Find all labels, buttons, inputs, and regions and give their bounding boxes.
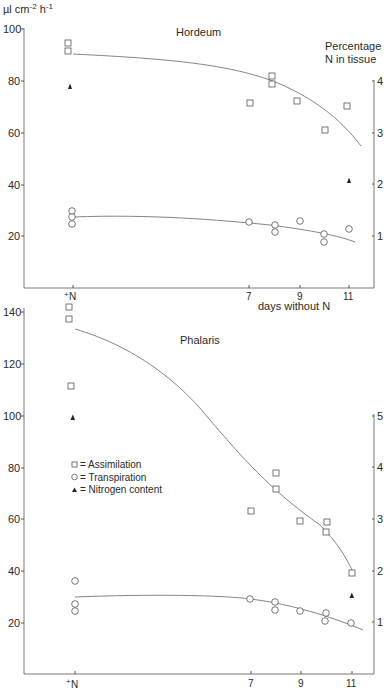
assimilation-fit-curve bbox=[75, 329, 352, 570]
svg-text:4: 4 bbox=[377, 461, 383, 473]
legend-item-nitrogen: = Nitrogen content bbox=[72, 484, 162, 495]
chart-phalaris: Phalaris 140 120 100 80 60 40 20 5 4 3 2… bbox=[3, 304, 383, 690]
figure: µl cm-2 h-1 Hordeum Percentage N in tiss… bbox=[0, 0, 390, 692]
svg-text:4: 4 bbox=[377, 75, 383, 87]
nitrogen-points bbox=[71, 415, 355, 599]
right-axis-label-line1: Percentage bbox=[325, 40, 381, 52]
svg-text:80: 80 bbox=[8, 462, 20, 474]
assimilation-points bbox=[65, 40, 350, 133]
legend-item-transpiration: = Transpiration bbox=[72, 472, 147, 483]
svg-text:120: 120 bbox=[3, 358, 21, 370]
svg-text:5: 5 bbox=[377, 410, 383, 422]
transpiration-fit-curve bbox=[75, 595, 363, 630]
svg-text:= Nitrogen content: = Nitrogen content bbox=[80, 484, 162, 495]
svg-text:60: 60 bbox=[8, 127, 20, 139]
svg-text:7: 7 bbox=[248, 678, 254, 689]
svg-text:1: 1 bbox=[377, 616, 383, 628]
svg-text:3: 3 bbox=[377, 513, 383, 525]
y-axis-units-label: µl cm-2 h-1 bbox=[3, 2, 53, 15]
svg-text:11: 11 bbox=[343, 291, 354, 302]
svg-text:140: 140 bbox=[3, 306, 21, 318]
svg-text:100: 100 bbox=[3, 410, 21, 422]
svg-text:60: 60 bbox=[8, 513, 20, 525]
svg-text:20: 20 bbox=[8, 230, 20, 242]
svg-text:= Transpiration: = Transpiration bbox=[80, 472, 146, 483]
chart-hordeum: µl cm-2 h-1 Hordeum Percentage N in tiss… bbox=[3, 2, 383, 312]
svg-text:= Assimilation: = Assimilation bbox=[80, 459, 141, 470]
svg-text:3: 3 bbox=[377, 127, 383, 139]
svg-text:40: 40 bbox=[8, 565, 20, 577]
legend-item-assimilation: = Assimilation bbox=[72, 459, 141, 470]
svg-text:100: 100 bbox=[3, 23, 21, 35]
svg-text:40: 40 bbox=[8, 179, 20, 191]
svg-text:9: 9 bbox=[298, 678, 304, 689]
svg-text:1: 1 bbox=[377, 230, 383, 242]
x-axis-label: days without N bbox=[258, 300, 330, 312]
svg-text:N: N bbox=[71, 679, 78, 690]
transpiration-points bbox=[72, 578, 355, 627]
left-y-ticks: 140 120 100 80 60 40 20 bbox=[3, 306, 24, 629]
chart-title-phalaris: Phalaris bbox=[180, 334, 220, 346]
right-axis-label-line2: N in tissue bbox=[325, 53, 376, 65]
transpiration-points bbox=[69, 208, 353, 246]
assimilation-fit-curve bbox=[73, 54, 361, 146]
svg-text:N: N bbox=[69, 291, 76, 302]
svg-text:2: 2 bbox=[377, 178, 383, 190]
svg-text:2: 2 bbox=[377, 565, 383, 577]
transpiration-fit-curve bbox=[73, 216, 355, 242]
svg-text:20: 20 bbox=[8, 617, 20, 629]
svg-text:80: 80 bbox=[8, 75, 20, 87]
left-y-ticks: 100 80 60 40 20 bbox=[3, 23, 24, 242]
legend: = Assimilation = Transpiration = Nitroge… bbox=[72, 459, 163, 495]
svg-text:11: 11 bbox=[346, 678, 357, 689]
svg-text:7: 7 bbox=[246, 291, 252, 302]
chart-title-hordeum: Hordeum bbox=[176, 26, 221, 38]
